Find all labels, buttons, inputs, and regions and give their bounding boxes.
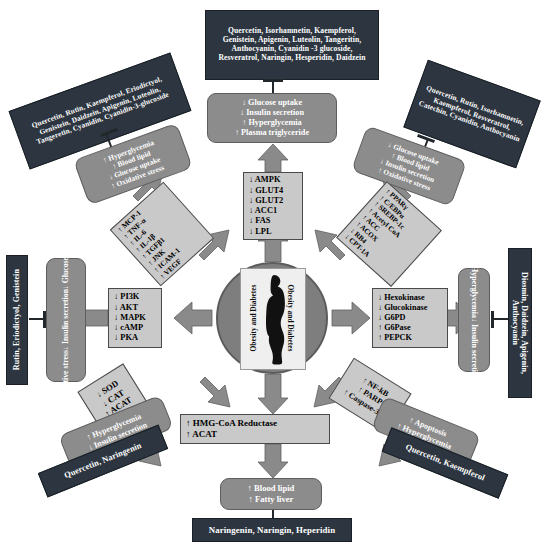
- top-outcome-line-3: ↑ Hyperglycemia: [214, 118, 330, 128]
- bottom-marker-box: ↑ HMG-CoA Reductase ↑ ACAT: [180, 414, 330, 444]
- right-marker-box: ↓ Hexokinase ↓ Glucokinase ↓ G6PD ↑ G6Pa…: [372, 288, 448, 348]
- top-phytochemical-label: Quercetin, Isorhamnetin, Kaempferol, Gen…: [211, 27, 373, 63]
- top-marker-5: ↓ FAS: [249, 216, 297, 226]
- bottom-outcome-box: ↑ Blood lipid ↑ Fatty liver: [220, 478, 322, 510]
- left-outcome-box: ↓ Glucose uptake ↓ Insulin secretion ↑ O…: [46, 258, 86, 382]
- bottom-marker-1: ↑ HMG-CoA Reductase: [186, 418, 324, 429]
- center-label-left: Obesity and Diabetes: [249, 285, 258, 352]
- bottom-outcome-line-2: ↑ Fatty liver: [227, 494, 315, 505]
- left-marker-box: ↓ PI3K ↓ AKT ↓ MAPK ↓ cAMP ↓ PKA: [108, 288, 162, 348]
- right-outcome-line-1: ↑ Hyperglycemia: [469, 260, 479, 318]
- right-phytochemical-label: Diosmin, Daidzein, Apigenin, Anthocyanin: [511, 253, 530, 393]
- bottom-phytochemical-label: Naringenin, Naringin, Heperidin: [198, 525, 346, 535]
- top-outcome-line-4: ↑ Plasma triglyceride: [214, 128, 330, 138]
- right-marker-5: ↑ PEPCK: [378, 333, 442, 343]
- right-connector-cap: [491, 311, 494, 328]
- right-outcome-line-2: ↓ Insulin secretion: [469, 318, 479, 381]
- bottom-outcome-line-1: ↑ Blood lipid: [227, 483, 315, 494]
- topright-phytochemical-label: Quercetin, Rutin, Isorhamnetin, Kaempfer…: [417, 83, 527, 144]
- left-marker-3: ↓ MAPK: [114, 313, 156, 323]
- top-connector-cap: [263, 79, 283, 82]
- right-connector: [492, 318, 508, 320]
- left-marker-1: ↓ PI3K: [114, 292, 156, 302]
- center-label-right: Obesity and Diabetes: [286, 285, 295, 352]
- top-marker-box: ↓ AMPK ↓ GLUT4 ↓ GLUT2 ↓ ACC1 ↓ FAS ↓ LP…: [243, 172, 303, 240]
- bottom-phytochemical-box: Naringenin, Naringin, Heperidin: [192, 518, 352, 542]
- diagram-canvas: Quercetin, Isorhamnetin, Kaempferol, Gen…: [0, 0, 544, 549]
- left-phytochemical-box: Rutin, Eriodictyol, Genistein: [6, 255, 28, 385]
- center-node: Obesity and Diabetes Obesity and Diabete…: [216, 262, 328, 374]
- bottom-marker-2: ↑ ACAT: [186, 429, 324, 440]
- right-phytochemical-box: Diosmin, Daidzein, Apigenin, Anthocyanin: [508, 248, 532, 398]
- right-marker-2: ↓ Glucokinase: [378, 303, 442, 313]
- right-marker-3: ↓ G6PD: [378, 313, 442, 323]
- top-marker-2: ↓ GLUT4: [249, 186, 297, 196]
- top-marker-6: ↓ LPL: [249, 227, 297, 237]
- top-marker-3: ↓ GLUT2: [249, 196, 297, 206]
- left-outcome-line-2: ↓ Insulin secretion: [61, 289, 71, 350]
- left-marker-2: ↓ AKT: [114, 303, 156, 313]
- top-outcome-line-2: ↓ Insulin secretion: [214, 108, 330, 118]
- left-marker-4: ↓ cAMP: [114, 323, 156, 333]
- top-outcome-box: ↓ Glucose uptake ↓ Insulin secretion ↑ H…: [207, 93, 337, 143]
- right-marker-1: ↓ Hexokinase: [378, 293, 442, 303]
- left-outcome-line-1: ↓ Glucose uptake: [61, 232, 71, 289]
- top-marker-1: ↓ AMPK: [249, 175, 297, 185]
- left-marker-5: ↓ PKA: [114, 333, 156, 343]
- top-marker-4: ↓ ACC1: [249, 206, 297, 216]
- left-phytochemical-label: Rutin, Eriodictyol, Genistein: [12, 269, 21, 370]
- top-phytochemical-box: Quercetin, Isorhamnetin, Kaempferol, Gen…: [205, 10, 379, 80]
- right-outcome-box: ↑ Hyperglycemia ↓ Insulin secretion: [458, 268, 490, 372]
- right-marker-4: ↑ G6Pase: [378, 323, 442, 333]
- top-outcome-line-1: ↓ Glucose uptake: [214, 98, 330, 108]
- left-outcome-line-3: ↑ Oxidative stress: [61, 350, 71, 409]
